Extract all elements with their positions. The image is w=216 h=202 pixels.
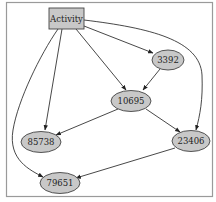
diagram-canvas: Activity 3392 10695 85738 23406 79651 — [0, 0, 216, 202]
node-label: 79651 — [46, 178, 73, 188]
node-activity[interactable]: Activity — [49, 8, 84, 29]
node-label: 3392 — [157, 55, 179, 65]
node-label: 23406 — [177, 136, 204, 146]
node-label: 85738 — [27, 137, 54, 147]
node-23406[interactable]: 23406 — [172, 131, 210, 152]
node-3392[interactable]: 3392 — [152, 50, 184, 70]
node-79651[interactable]: 79651 — [40, 173, 80, 194]
node-10695[interactable]: 10695 — [111, 91, 151, 112]
node-85738[interactable]: 85738 — [21, 132, 61, 153]
node-label: 10695 — [117, 96, 144, 106]
graph-svg: Activity 3392 10695 85738 23406 79651 — [0, 0, 216, 202]
node-label: Activity — [49, 14, 83, 24]
